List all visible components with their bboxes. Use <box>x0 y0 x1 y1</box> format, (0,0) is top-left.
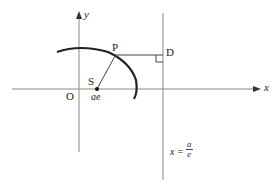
point-p-label: P <box>112 42 118 53</box>
sp-line <box>97 56 115 89</box>
origin-label: O <box>66 91 74 102</box>
focus-label: S <box>88 76 94 87</box>
directrix-equation-prefix: x = <box>170 147 184 157</box>
ellipse-diagram: y x O P D S ae x = a e <box>0 0 276 190</box>
diagram-graphic <box>0 0 276 190</box>
point-d-label: D <box>166 47 174 58</box>
directrix-equation-fraction: a e <box>186 140 193 159</box>
directrix-denominator: e <box>186 150 193 159</box>
x-axis-label: x <box>264 82 269 93</box>
focus-coordinate-label: ae <box>91 92 100 102</box>
x-axis-arrow-icon <box>253 86 261 92</box>
y-axis-label: y <box>84 9 89 20</box>
right-angle-marker <box>156 55 163 62</box>
y-axis-arrow-icon <box>76 11 82 19</box>
